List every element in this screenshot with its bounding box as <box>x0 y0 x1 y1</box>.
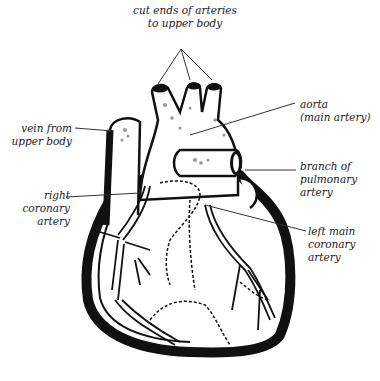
label-vein: vein from upper body <box>2 122 72 148</box>
label-pulmonary: branch of pulmonary artery <box>300 160 357 199</box>
label-right-coronary: right coronary artery <box>2 189 70 228</box>
label-cut-ends: cut ends of arteries to upper body <box>130 4 240 30</box>
label-aorta: aorta (main artery) <box>300 98 371 124</box>
aorta <box>140 84 238 201</box>
label-left-coronary: left main coronary artery <box>308 225 356 264</box>
